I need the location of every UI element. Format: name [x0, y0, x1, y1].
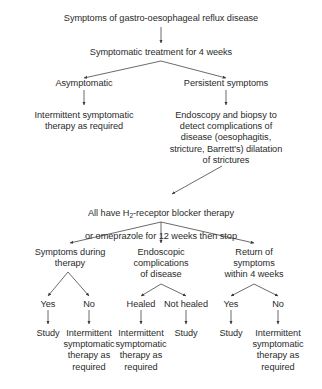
node-no-left: No — [69, 299, 109, 310]
node-endoscopy-biopsy: Endoscopy and biopsy to detect complicat… — [146, 110, 306, 166]
edge-endoscopy-to-allhave — [172, 166, 222, 194]
h2-subscript: 2 — [129, 212, 133, 219]
node-root: Symptoms of gastro-oesophageal reflux di… — [11, 13, 311, 24]
edge-complications-to-not-healed — [161, 284, 186, 296]
node-all-have-therapy: All have H2-receptor blocker therapy or … — [31, 197, 291, 242]
edge-treatment-to-persistent — [161, 61, 226, 78]
edge-return-to-yes — [231, 284, 254, 296]
edge-symptoms-to-yes — [48, 272, 68, 296]
flowchart-canvas: Symptoms of gastro-oesophageal reflux di… — [0, 0, 322, 389]
node-no-right: No — [258, 299, 298, 310]
edge-treatment-to-asymptomatic — [84, 61, 161, 78]
node-endoscopic-complications: Endoscopic complications of disease — [111, 247, 211, 281]
edge-symptoms-to-no — [68, 272, 89, 296]
node-yes-right: Yes — [211, 299, 251, 310]
all-have-line1: All have H2-receptor blocker therapy — [88, 208, 234, 218]
node-asymptomatic: Asymptomatic — [24, 78, 144, 89]
node-intermittent-therapy-left: Intermittent symptomatic therapy as requ… — [9, 110, 159, 132]
node-yes-left: Yes — [28, 299, 68, 310]
node-symptomatic-treatment: Symptomatic treatment for 4 weeks — [21, 47, 301, 58]
node-intermittent-3: Intermittent symptomatic therapy as requ… — [244, 328, 312, 373]
edge-return-to-no — [254, 284, 278, 296]
node-persistent-symptoms: Persistent symptoms — [156, 78, 296, 89]
all-have-line2: or omeprazole for 12 weeks then stop — [85, 231, 237, 241]
node-return-of-symptoms: Return of symptoms within 4 weeks — [199, 247, 309, 281]
node-not-healed: Not healed — [156, 299, 216, 310]
edge-complications-to-healed — [141, 284, 161, 296]
node-study-2: Study — [164, 328, 208, 339]
